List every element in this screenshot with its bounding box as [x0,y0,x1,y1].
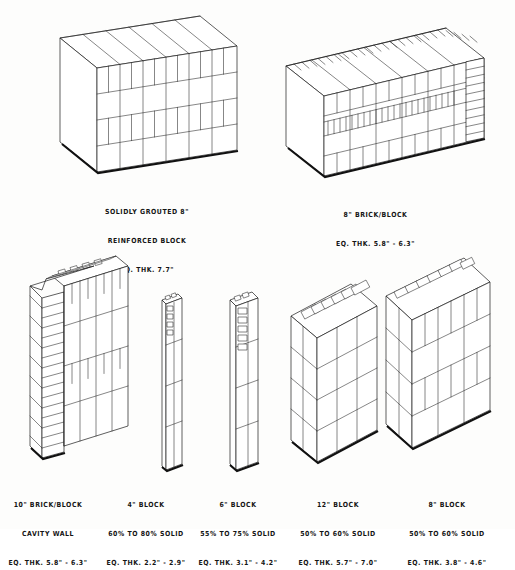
figure-brick-block-cavity-wall [8,252,134,478]
caption-line: EQ. THK. 3.8" - 4.6" [392,558,502,568]
twelve-inch-block-drawing [285,272,393,480]
figure-solid-grouted-block-wall [52,6,242,188]
caption-line: 4" BLOCK [96,501,196,511]
eight-inch-block-drawing [386,252,510,480]
figure-brick-block-composite-wall [276,14,504,186]
caption-line: EQ. THK. 3.1" - 4.2" [186,558,290,568]
figure-four-inch-block-wall [132,284,188,480]
figure-eight-inch-block-wall [386,252,510,480]
caption-line: 6" BLOCK [186,501,290,511]
six-inch-block-drawing [204,284,266,480]
caption-line: EQ. THK. 5.8" - 6.3" [0,558,96,568]
caption-line: 12" BLOCK [286,501,390,511]
caption-line: 8" BRICK/BLOCK [283,210,468,220]
caption-line: 10" BRICK/BLOCK [0,501,96,511]
caption-line: SOLIDLY GROUTED 8" [52,208,242,218]
figure-twelve-inch-block-wall [285,272,393,480]
caption-eight-inch-block-wall: 8" BLOCK 50% TO 60% SOLID EQ. THK. 3.8" … [392,481,502,570]
figure-six-inch-block-wall [204,284,266,480]
four-inch-block-drawing [132,284,188,480]
caption-brick-block-cavity-wall: 10" BRICK/BLOCK CAVITY WALL EQ. THK. 5.8… [0,481,96,570]
caption-line: EQ. THK. 5.8" - 6.3" [283,239,468,249]
caption-line: 50% TO 60% SOLID [286,529,390,539]
caption-line: 8" BLOCK [392,501,502,511]
caption-line: 55% TO 75% SOLID [186,529,290,539]
caption-line: CAVITY WALL [0,529,96,539]
caption-four-inch-block-wall: 4" BLOCK 60% TO 80% SOLID EQ. THK. 2.2" … [96,481,196,570]
brick-block-composite-drawing [276,14,504,186]
caption-line: EQ. THK. 2.2" - 2.9" [96,558,196,568]
caption-line: 50% TO 60% SOLID [392,529,502,539]
brick-block-cavity-drawing [8,252,134,478]
caption-line: EQ. THK. 5.7" - 7.0" [286,558,390,568]
caption-line: REINFORCED BLOCK [52,236,242,246]
solid-grouted-block-drawing [52,6,242,188]
caption-twelve-inch-block-wall: 12" BLOCK 50% TO 60% SOLID EQ. THK. 5.7"… [286,481,390,570]
caption-line: 60% TO 80% SOLID [96,529,196,539]
caption-six-inch-block-wall: 6" BLOCK 55% TO 75% SOLID EQ. THK. 3.1" … [186,481,290,570]
